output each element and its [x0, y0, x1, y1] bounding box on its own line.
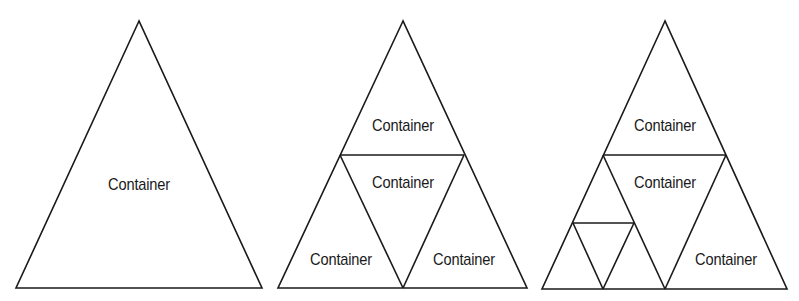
stage-1-triangle-group: [16, 21, 262, 288]
container-label-stage3-top: Container: [629, 116, 701, 136]
subdivision-edge: [573, 223, 603, 289]
subdivision-edge: [603, 223, 634, 289]
container-label-stage3-bottom-right: Container: [690, 250, 762, 270]
container-label-stage2-center: Container: [367, 173, 439, 193]
diagram-canvas: [0, 0, 799, 301]
container-label-stage2-top: Container: [367, 116, 439, 136]
stage-2-triangle-group: [278, 21, 527, 288]
container-label-stage2-bottom-right: Container: [428, 250, 500, 270]
container-label-stage1-main: Container: [103, 175, 175, 195]
container-label-stage2-bottom-left: Container: [305, 250, 377, 270]
stage-3-triangle-group: [542, 21, 787, 289]
container-label-stage3-center: Container: [629, 173, 701, 193]
outer-triangle-outline: [16, 21, 262, 288]
